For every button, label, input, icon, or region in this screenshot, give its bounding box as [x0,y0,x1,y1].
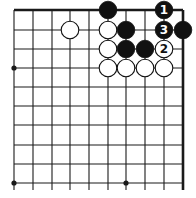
star-point [123,180,128,185]
white-stone [155,59,173,77]
move-number: 2 [160,42,168,56]
black-stone-move-1: 1 [155,1,173,19]
white-stone [99,21,117,39]
move-number: 1 [160,3,168,17]
move-number: 3 [160,23,168,37]
white-stone [61,21,79,39]
white-stone [136,59,154,77]
black-stone [99,1,117,19]
white-stone [99,40,117,58]
black-stone-move-3: 3 [155,21,173,39]
black-stone [117,40,135,58]
black-stone [136,40,154,58]
black-stone [174,21,192,39]
go-board-diagram: 132 [0,0,196,198]
white-stone [99,59,117,77]
white-stone [117,59,135,77]
white-stone-move-2: 2 [155,40,173,58]
board-grid [14,10,183,190]
star-point [11,65,16,70]
star-point [11,180,16,185]
black-stone [117,21,135,39]
